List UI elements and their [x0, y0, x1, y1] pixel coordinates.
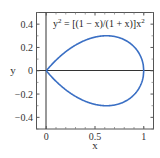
x-axis-label: x	[92, 139, 98, 151]
chart: 00.51 0.40.20−0.2−0.4 y2 = [(1 − x)/(1 +…	[0, 0, 160, 158]
y-axis-label: y	[10, 64, 16, 76]
y-tick-label: 0.4	[21, 19, 34, 30]
x-ticks: 00.51	[44, 13, 147, 143]
y-tick-label: 0.2	[21, 42, 34, 53]
y-tick-label: −0.2	[15, 89, 33, 100]
x-tick-label: 1	[141, 131, 146, 142]
x-tick-label: 0	[44, 131, 49, 142]
y-tick-label: 0	[28, 65, 33, 76]
y-tick-label: −0.4	[15, 112, 33, 123]
equation-annotation: y2 = [(1 − x)/(1 + x)]x2	[53, 17, 145, 30]
